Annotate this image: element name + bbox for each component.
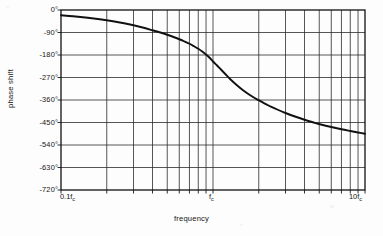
x-axis-tick-label: 10fc xyxy=(349,193,362,201)
phase-shift-bode-chart: 0°-90°-180°-270°-360°-450°-540°-630°-720… xyxy=(0,0,383,236)
x-axis-tick-label: fc xyxy=(209,193,214,201)
y-axis-tick-label: 0° xyxy=(0,6,58,13)
y-axis-tick-label: -450° xyxy=(0,119,58,126)
x-axis-tick-labels: 0.1fcfc10fc xyxy=(0,193,383,209)
y-axis-tick-label: -90° xyxy=(0,29,58,36)
x-axis-tick-label: 0.1fc xyxy=(60,193,75,201)
x-axis-title: frequency xyxy=(0,214,383,223)
y-axis-tick-label: -540° xyxy=(0,141,58,148)
y-axis-tick-label: -630° xyxy=(0,164,58,171)
y-axis-title: phase shift xyxy=(6,59,15,119)
